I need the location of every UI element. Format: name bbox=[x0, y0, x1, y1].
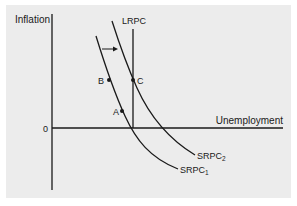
svg-text:SRPC2: SRPC2 bbox=[197, 151, 226, 162]
srpc1-label: SRPC1 bbox=[180, 165, 209, 176]
point-c bbox=[131, 78, 135, 82]
y-axis-label: Inflation bbox=[15, 14, 50, 25]
point-b bbox=[107, 78, 111, 82]
point-a bbox=[120, 109, 124, 113]
shift-arrow-icon bbox=[102, 47, 118, 52]
origin-label: 0 bbox=[43, 124, 48, 134]
svg-text:SRPC1: SRPC1 bbox=[180, 165, 209, 176]
srpc1-curve bbox=[96, 36, 178, 169]
srpc2-label: SRPC2 bbox=[197, 151, 226, 162]
point-c-label: C bbox=[137, 76, 144, 86]
x-axis-label: Unemployment bbox=[216, 115, 283, 126]
point-a-label: A bbox=[113, 107, 119, 117]
point-b-label: B bbox=[98, 76, 104, 86]
srpc2-curve bbox=[112, 21, 195, 155]
lrpc-label: LRPC bbox=[122, 16, 147, 26]
phillips-curve-diagram: Inflation Unemployment 0 LRPC B C A SRPC… bbox=[0, 0, 297, 206]
